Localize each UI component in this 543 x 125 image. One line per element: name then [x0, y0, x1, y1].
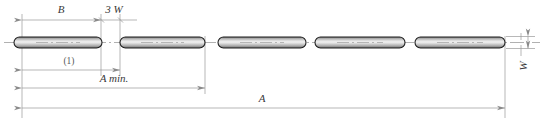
rod-5 — [415, 37, 505, 48]
dimension-label-3W: 3 W — [104, 3, 123, 15]
extension-lines — [22, 14, 521, 118]
dimension-label-one: (1) — [63, 56, 74, 67]
drawing-canvas: B 3 W (1) A min. A W — [0, 0, 543, 125]
rod-3 — [218, 37, 306, 48]
rod-segments — [14, 37, 505, 48]
rod-4 — [315, 37, 405, 48]
dimension-drawing-svg: B 3 W (1) A min. A W — [0, 0, 543, 125]
dimension-label-B: B — [58, 3, 65, 15]
dimension-lines — [22, 18, 535, 109]
dimension-label-Amin: A min. — [99, 72, 129, 84]
dimension-label-W: W — [517, 61, 529, 71]
dimension-label-A: A — [258, 92, 266, 104]
rod-2 — [120, 37, 205, 48]
rod-1 — [14, 37, 102, 48]
